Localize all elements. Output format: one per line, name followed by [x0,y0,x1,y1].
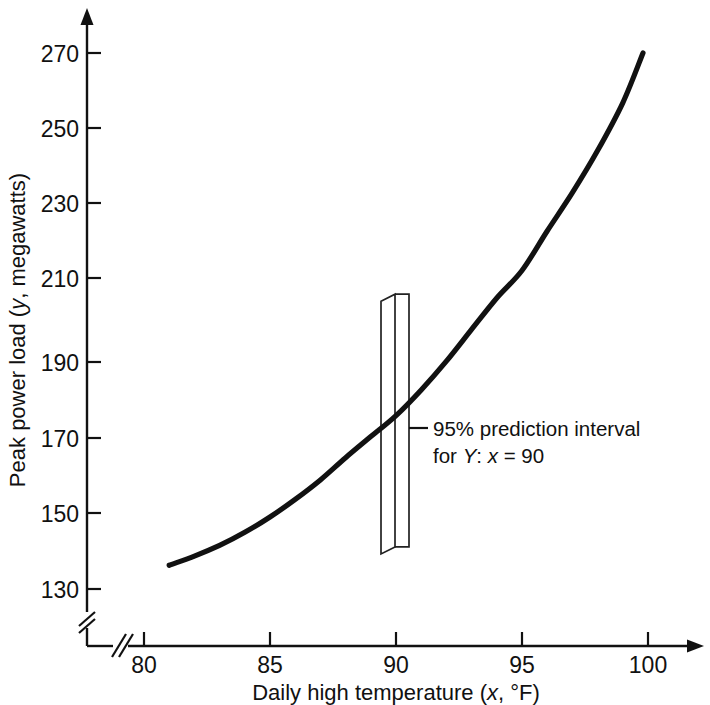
y-axis-title: Peak power load (y, megawatts) [5,173,30,487]
y-axis: 270 250 230 210 190 170 150 130 Peak pow… [5,8,101,646]
x-tick-label: 80 [131,652,157,678]
y-axis-title-post: , megawatts) [5,173,30,299]
y-tick-label: 190 [41,350,79,376]
annotation-predictor-variable: x [487,444,499,467]
prediction-interval-annotation: 95% prediction interval for Y: x = 90 [409,417,640,467]
data-series-curve [169,53,643,565]
y-tick-label: 250 [41,116,79,142]
x-axis: 80 85 90 95 100 Daily high temperature (… [87,632,704,705]
y-tick-label: 170 [41,426,79,452]
x-axis-title: Daily high temperature (x, °F) [252,680,540,705]
x-tick-label: 85 [257,652,283,678]
x-axis-break-mark-icon [112,634,126,657]
x-tick-label: 100 [629,652,667,678]
y-axis-break-mark-icon [79,612,95,626]
annotation-line-2-post: = 90 [498,444,544,467]
y-axis-title-pre: Peak power load ( [5,309,30,487]
peak-power-load-curve [169,53,643,565]
x-axis-title-pre: Daily high temperature ( [252,680,487,705]
y-tick-label: 230 [41,191,79,217]
y-tick-label: 210 [41,266,79,292]
y-tick-label: 130 [41,577,79,603]
x-axis-title-post: , °F) [498,680,540,705]
x-axis-arrow-icon [687,640,704,653]
chart-canvas: 270 250 230 210 190 170 150 130 Peak pow… [0,0,710,705]
x-tick-label: 95 [509,652,535,678]
prediction-interval-side-face [395,294,409,547]
x-tick-label: 90 [383,652,409,678]
chart-figure: 270 250 230 210 190 170 150 130 Peak pow… [0,0,710,705]
annotation-line-2-mid: : [476,444,487,467]
annotation-line-2-pre: for [433,444,463,467]
y-axis-arrow-icon [81,8,94,25]
y-tick-label: 270 [41,41,79,67]
y-tick-label: 150 [41,501,79,527]
annotation-line-1: 95% prediction interval [433,417,640,440]
annotation-line-2: for Y: x = 90 [433,444,544,467]
